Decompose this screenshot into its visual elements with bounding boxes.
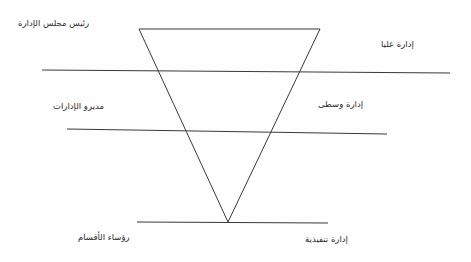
triangle-left-edge	[139, 29, 228, 222]
label-top-management: إدارة عليا	[381, 39, 414, 49]
divider-lines	[42, 70, 450, 223]
diagram-canvas: رئيس مجلس الإدارة إدارة عليا مديرو الإدا…	[0, 0, 471, 262]
triangle-right-edge	[228, 29, 320, 222]
label-chairman-of-the-board: رئيس مجلس الإدارة	[18, 18, 89, 28]
label-department-managers: مديرو الإدارات	[53, 101, 104, 111]
divider-line-upper	[42, 70, 450, 73]
divider-line-lower	[137, 222, 328, 223]
inverted-triangle	[139, 29, 320, 222]
label-section-heads: رؤساء الأقسام	[78, 232, 130, 242]
divider-line-middle	[67, 129, 387, 134]
label-middle-management: إدارة وسطى	[318, 99, 363, 109]
label-executive-management: إدارة تنفيذية	[305, 234, 348, 244]
